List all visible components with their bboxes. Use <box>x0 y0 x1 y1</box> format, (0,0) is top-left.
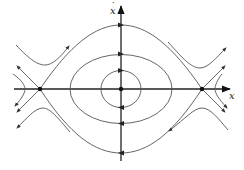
right-side-trajectory <box>215 74 227 108</box>
y-axis-label: ˙ x <box>110 6 116 16</box>
center-point <box>119 87 123 91</box>
left-side-trajectory <box>13 74 25 106</box>
right-saddle-manifold-ur <box>202 66 225 89</box>
left-upper-trajectory <box>16 45 69 65</box>
phase-portrait-canvas <box>0 0 244 170</box>
phase-portrait-figure: x ˙ x <box>0 0 244 170</box>
right-lower-trajectory <box>169 108 228 131</box>
right-upper-trajectory <box>168 42 226 68</box>
left-saddle-point <box>38 87 42 91</box>
left-lower-trajectory <box>17 108 70 132</box>
left-saddle-manifold-ul <box>17 66 40 89</box>
left-saddle-manifold-ll <box>17 89 40 112</box>
y-axis-label-dot: ˙ <box>111 2 116 11</box>
right-saddle-point <box>200 87 204 91</box>
x-axis-label: x <box>229 91 235 101</box>
